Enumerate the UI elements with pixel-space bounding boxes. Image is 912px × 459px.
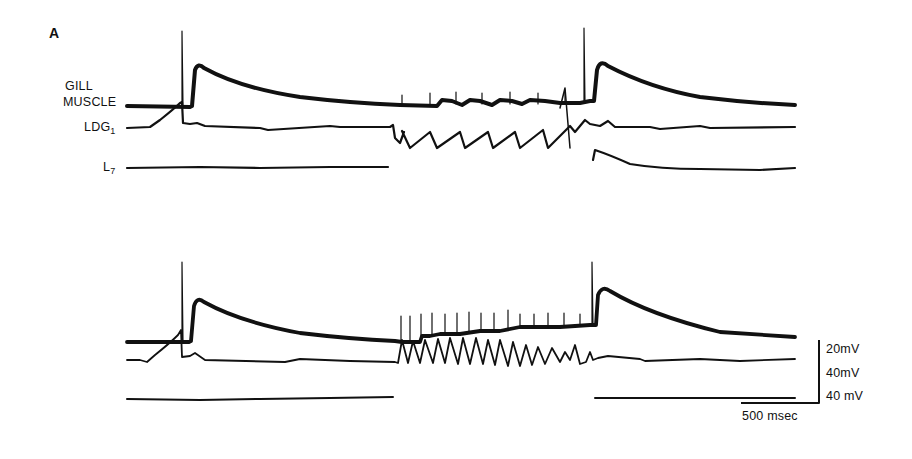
scale-bar [742,341,819,403]
trace-top-ldg1 [127,102,795,148]
trace-bottom-l7 [127,397,795,400]
traces-plot [0,0,912,459]
trace-bottom-gill-muscle [127,289,795,342]
trace-top-l7 [127,150,795,170]
trace-top-gill-muscle [127,63,795,107]
figure-panel-a: A GILL MUSCLE LDG1 L7 20mV 40mV 40 mV 50… [0,0,912,459]
